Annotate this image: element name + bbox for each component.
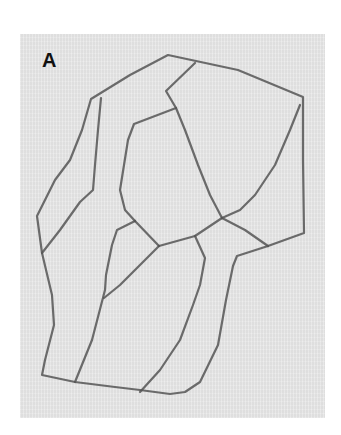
inner-stroke-4 [222,105,300,218]
inner-stroke-7 [159,218,222,246]
inner-stroke-5 [75,221,135,382]
pencil-sketch [0,0,341,435]
inner-stroke-2 [120,63,195,221]
inner-stroke-9 [140,236,205,392]
inner-stroke-10 [222,218,268,246]
inner-stroke-3 [176,108,222,218]
inner-stroke-6 [135,221,159,246]
outline-stroke [37,55,304,394]
inner-stroke-1 [42,98,101,253]
inner-stroke-8 [104,246,159,298]
